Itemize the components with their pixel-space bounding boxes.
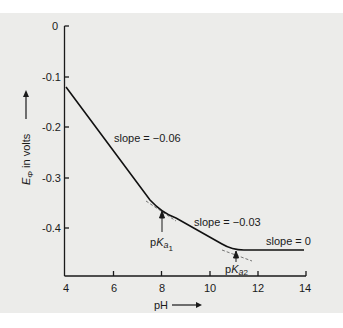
y-tick-0.1: -0.1 xyxy=(42,71,61,83)
chart: 0 -0.1 -0.2 -0.3 -0.4 4 6 8 10 12 14 pH … xyxy=(0,0,343,328)
y-tick-labels: 0 -0.1 -0.2 -0.3 -0.4 xyxy=(42,20,61,234)
y-tick-0.4: -0.4 xyxy=(42,222,61,234)
x-tick-8: 8 xyxy=(159,282,165,294)
x-axis-label: pH xyxy=(154,299,202,311)
svg-text:EΦ in volts: EΦ in volts xyxy=(20,133,35,185)
x-tick-14: 14 xyxy=(299,282,311,294)
y-arrowhead-icon xyxy=(23,90,29,97)
slope-annotation-1: slope = −0.06 xyxy=(114,132,181,144)
slope-annotation-3: slope = 0 xyxy=(266,235,311,247)
x-tick-6: 6 xyxy=(111,282,117,294)
svg-text:pH: pH xyxy=(154,299,168,311)
y-tick-0.3: -0.3 xyxy=(42,172,61,184)
data-line xyxy=(66,87,304,250)
x-tick-12: 12 xyxy=(252,282,264,294)
x-tick-10: 10 xyxy=(204,282,216,294)
y-tick-0.2: -0.2 xyxy=(42,121,61,133)
x-tick-4: 4 xyxy=(63,282,69,294)
x-arrowhead-icon xyxy=(196,302,202,308)
y-axis-label: EΦ in volts xyxy=(20,90,35,185)
y-tick-0: 0 xyxy=(52,20,58,32)
slope-annotation-2: slope = −0.03 xyxy=(194,216,261,228)
x-tick-labels: 4 6 8 10 12 14 xyxy=(63,282,311,294)
pka1-label: pKa1 xyxy=(150,236,173,253)
pka2-label: pKa2 xyxy=(225,263,248,277)
